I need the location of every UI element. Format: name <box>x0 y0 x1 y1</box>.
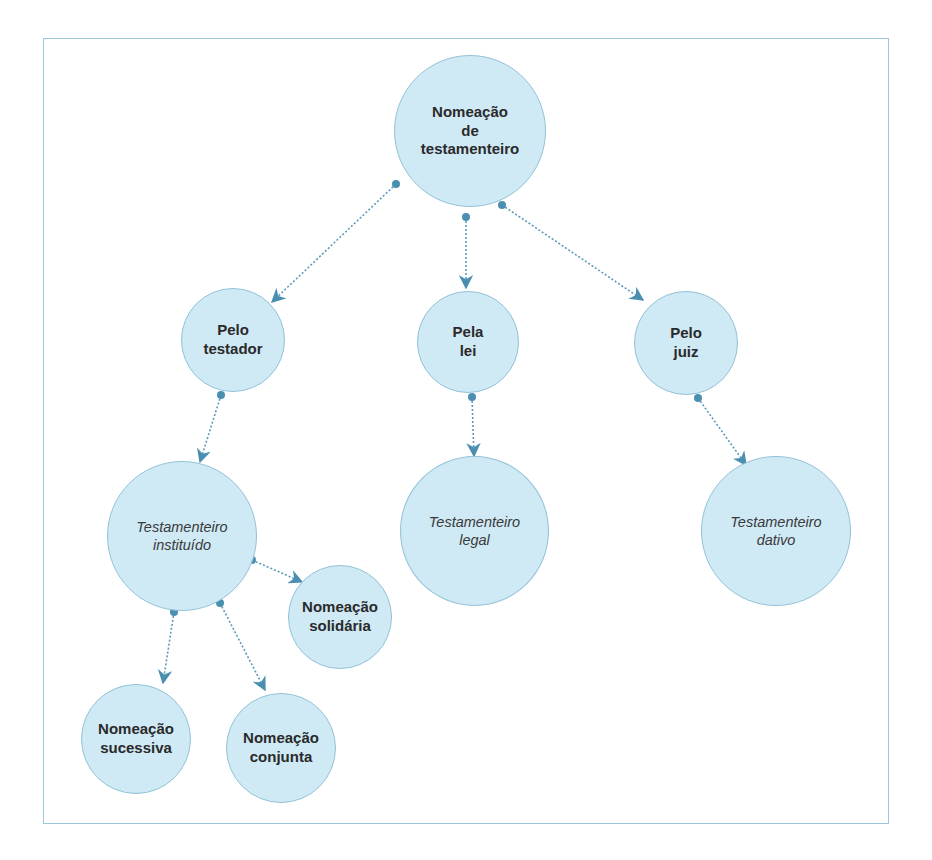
connector-dot <box>468 393 476 401</box>
node-label: solidária <box>309 617 371 636</box>
node-label: testador <box>203 340 262 359</box>
edge-root-pelo-juiz <box>502 205 643 300</box>
edge-root-pelo-testador <box>272 184 396 302</box>
edge-instituido-solidaria <box>252 560 302 582</box>
node-pelo-testador: Pelo testador <box>181 288 285 392</box>
connector-dot <box>462 213 470 221</box>
node-label: conjunta <box>250 748 313 767</box>
node-testamenteiro-instituido: Testamenteiro instituído <box>107 461 257 611</box>
node-label: de <box>461 122 479 141</box>
edge-pela-lei-legal <box>472 397 474 456</box>
node-label: Nomeação <box>302 598 378 617</box>
edge-pelo-testador-instituido <box>200 395 221 462</box>
connector-dot <box>498 201 506 209</box>
node-label: juiz <box>674 343 699 362</box>
node-label: testamenteiro <box>421 140 519 159</box>
node-label: Nomeação <box>432 103 508 122</box>
node-label: instituído <box>153 536 211 554</box>
node-nomeacao-de-testamenteiro: Nomeação de testamenteiro <box>394 55 546 207</box>
node-pelo-juiz: Pelo juiz <box>634 291 738 395</box>
node-label: Testamenteiro <box>429 513 520 531</box>
node-label: Nomeação <box>98 720 174 739</box>
node-label: Testamenteiro <box>136 518 227 536</box>
node-label: lei <box>460 342 477 361</box>
node-label: Testamenteiro <box>730 513 821 531</box>
node-testamenteiro-legal: Testamenteiro legal <box>400 456 549 606</box>
node-label: dativo <box>757 531 796 549</box>
node-nomeacao-sucessiva: Nomeação sucessiva <box>81 684 191 794</box>
node-testamenteiro-dativo: Testamenteiro dativo <box>701 456 851 606</box>
node-label: Nomeação <box>243 729 319 748</box>
node-label: sucessiva <box>100 739 172 758</box>
connector-dot <box>217 391 225 399</box>
edge-instituido-conjunta <box>220 603 265 690</box>
node-label: Pela <box>453 323 484 342</box>
connector-dot <box>694 394 702 402</box>
edge-instituido-sucessiva <box>163 612 174 683</box>
node-label: legal <box>459 531 490 549</box>
node-nomeacao-conjunta: Nomeação conjunta <box>226 693 336 803</box>
node-pela-lei: Pela lei <box>417 291 519 393</box>
connector-dot <box>392 180 400 188</box>
node-nomeacao-solidaria: Nomeação solidária <box>288 565 392 669</box>
node-label: Pelo <box>670 324 702 343</box>
node-label: Pelo <box>217 321 249 340</box>
edge-pelo-juiz-dativo <box>698 398 746 465</box>
